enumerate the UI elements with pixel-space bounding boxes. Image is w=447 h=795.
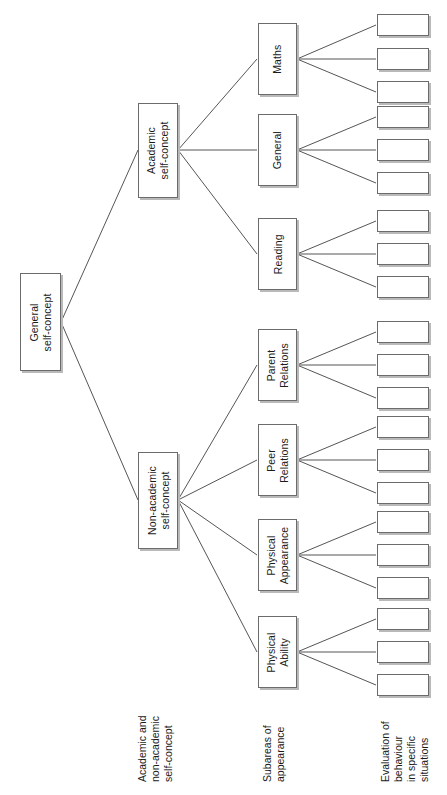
leaf-box[interactable] xyxy=(377,276,429,298)
node-academic-self-concept[interactable]: Academic self-concept xyxy=(138,103,178,198)
edge-ability-leaf-1 xyxy=(297,619,376,652)
edge-nonacademic-ability xyxy=(178,500,257,652)
leaf-box[interactable] xyxy=(377,172,429,194)
axis-label-evaluation: Evaluation of behaviour in specific situ… xyxy=(379,721,431,782)
edge-maths-leaf-1 xyxy=(297,25,376,59)
leaf-box[interactable] xyxy=(377,139,429,161)
edge-root-academic xyxy=(61,150,138,322)
axis-label-line3: self-concept xyxy=(162,725,174,782)
edge-nonacademic-appearance xyxy=(178,500,257,555)
node-label: Academic self-concept xyxy=(146,122,171,180)
node-label-line2: Relations xyxy=(278,343,290,388)
node-label-line2: Ability xyxy=(278,638,290,667)
edge-parent-leaf-3 xyxy=(297,365,376,398)
axis-label-subareas: Subareas of appearance xyxy=(261,725,287,782)
node-reading[interactable]: Reading xyxy=(258,218,297,290)
edge-root-nonacademic xyxy=(61,322,138,500)
axis-label-line3: in specific xyxy=(405,736,417,782)
leaf-box[interactable] xyxy=(377,449,429,471)
edge-nonacademic-parent xyxy=(178,365,257,500)
node-label: Physical Appearance xyxy=(265,526,290,584)
node-label-line1: Peer xyxy=(265,449,277,472)
node-physical-appearance[interactable]: Physical Appearance xyxy=(258,519,297,591)
edge-appearance-leaf-1 xyxy=(297,522,376,555)
leaf-box[interactable] xyxy=(377,416,429,438)
edge-parent-leaf-1 xyxy=(297,332,376,365)
node-label-line2: self-concept xyxy=(41,293,53,351)
node-label-line1: Physical xyxy=(265,535,277,575)
node-label: Parent Relations xyxy=(265,343,290,388)
edge-peer-leaf-1 xyxy=(297,427,376,460)
leaf-box[interactable] xyxy=(377,243,429,265)
edge-reading-leaf-1 xyxy=(297,221,376,254)
leaf-box[interactable] xyxy=(377,511,429,533)
diagram-canvas: General self-concept Academic self-conce… xyxy=(0,0,447,795)
node-non-academic-self-concept[interactable]: Non-academic self-concept xyxy=(138,452,178,549)
leaf-box[interactable] xyxy=(377,674,429,696)
node-label: General self-concept xyxy=(28,293,53,351)
leaf-box[interactable] xyxy=(377,482,429,504)
edge-nonacademic-peer xyxy=(178,460,257,500)
node-label: Maths xyxy=(271,44,284,73)
node-label-line1: Physical xyxy=(265,632,277,672)
edge-academic-maths xyxy=(178,59,257,150)
leaf-box[interactable] xyxy=(377,81,429,103)
leaf-box[interactable] xyxy=(377,321,429,343)
edge-general-leaf-1 xyxy=(297,117,376,150)
edge-reading-leaf-3 xyxy=(297,254,376,287)
node-label: Non-academic self-concept xyxy=(146,466,171,535)
leaf-box[interactable] xyxy=(377,608,429,630)
edge-general-leaf-3 xyxy=(297,150,376,183)
node-label: Peer Relations xyxy=(265,438,290,483)
node-label-line2: self-concept xyxy=(158,472,170,530)
node-label-line1: General xyxy=(28,303,40,341)
node-general[interactable]: General xyxy=(258,114,297,186)
node-label-line1: General xyxy=(271,131,283,169)
axis-label-line2: non-academic xyxy=(149,716,161,782)
axis-label-line1: Evaluation of xyxy=(379,721,391,782)
leaf-box[interactable] xyxy=(377,106,429,128)
axis-label-line4: situations xyxy=(418,738,430,782)
axis-label-line2: behaviour xyxy=(392,736,404,782)
leaf-box[interactable] xyxy=(377,14,429,36)
node-maths[interactable]: Maths xyxy=(258,23,297,95)
edge-academic-reading xyxy=(178,150,257,254)
node-label-line2: Appearance xyxy=(278,526,290,584)
node-label: Reading xyxy=(271,234,284,274)
leaf-box[interactable] xyxy=(377,544,429,566)
axis-label-academic-non-academic: Academic and non-academic self-concept xyxy=(136,715,175,782)
node-label-line1: Reading xyxy=(271,234,283,274)
node-label-line1: Non-academic xyxy=(146,466,158,535)
axis-label-line2: appearance xyxy=(274,727,286,782)
node-label: General xyxy=(271,131,284,169)
node-physical-ability[interactable]: Physical Ability xyxy=(258,616,297,688)
edge-maths-leaf-3 xyxy=(297,59,376,92)
node-label-line2: Relations xyxy=(278,438,290,483)
leaf-box[interactable] xyxy=(377,210,429,232)
axis-label-line1: Subareas of xyxy=(261,725,273,782)
leaf-box[interactable] xyxy=(377,354,429,376)
node-label-line2: self-concept xyxy=(158,122,170,180)
leaf-box[interactable] xyxy=(377,387,429,409)
node-label: Physical Ability xyxy=(265,632,290,672)
leaf-box[interactable] xyxy=(377,577,429,599)
edge-appearance-leaf-3 xyxy=(297,555,376,588)
leaf-box[interactable] xyxy=(377,48,429,70)
node-general-self-concept[interactable]: General self-concept xyxy=(20,273,61,371)
node-label-line1: Academic xyxy=(146,127,158,174)
node-label-line1: Parent xyxy=(265,349,277,381)
node-peer-relations[interactable]: Peer Relations xyxy=(258,424,297,496)
edge-ability-leaf-3 xyxy=(297,652,376,685)
edge-peer-leaf-3 xyxy=(297,460,376,493)
axis-label-line1: Academic and xyxy=(136,715,148,782)
node-label-line1: Maths xyxy=(271,44,283,73)
leaf-box[interactable] xyxy=(377,641,429,663)
node-parent-relations[interactable]: Parent Relations xyxy=(258,329,297,401)
